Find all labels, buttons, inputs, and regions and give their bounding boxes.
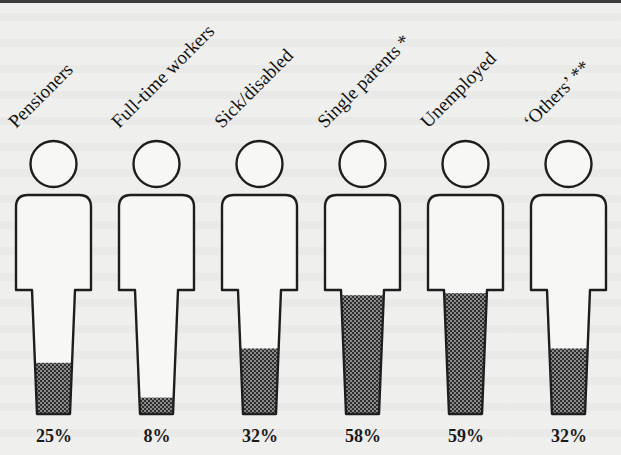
pictogram-chart [0,0,621,455]
fill-level [14,363,93,416]
head-circle [31,141,77,187]
head-circle [443,141,489,187]
percentage-label: 25% [16,426,92,447]
person-figure [14,141,93,416]
person-figure [323,141,402,416]
head-circle [134,141,180,187]
fill-level [426,293,505,416]
head-circle [340,141,386,187]
percentage-label: 32% [222,426,298,447]
percentage-label: 59% [428,426,504,447]
person-figure [426,141,505,416]
person-figure [220,141,299,416]
fill-level [529,348,608,416]
percentage-label: 58% [325,426,401,447]
head-circle [237,141,283,187]
percentage-label: 8% [119,426,195,447]
percentage-label: 32% [531,426,607,447]
fill-level [220,348,299,416]
person-figure [117,141,196,416]
head-circle [546,141,592,187]
person-figure [529,141,608,416]
fill-level [323,295,402,416]
